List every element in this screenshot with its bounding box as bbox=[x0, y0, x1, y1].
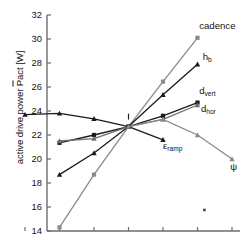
series-line bbox=[60, 103, 198, 143]
chart-container: active drive power Pact [W] 141618202224… bbox=[0, 0, 245, 248]
y-tick-label: 30 bbox=[20, 33, 42, 44]
data-point-marker bbox=[92, 173, 96, 177]
series-label-d_hor: dhor bbox=[201, 103, 216, 114]
y-tick-label: 20 bbox=[20, 153, 42, 164]
y-tick-label: 28 bbox=[20, 57, 42, 68]
data-point-marker bbox=[161, 80, 165, 84]
series-label-psi: ψ bbox=[230, 161, 237, 172]
y-tick-label: 14 bbox=[20, 225, 42, 236]
y-tick-label: 24 bbox=[20, 105, 42, 116]
data-point-marker bbox=[195, 36, 199, 40]
data-point-marker bbox=[195, 62, 200, 67]
series-d_hor bbox=[57, 102, 200, 143]
annotation-dot bbox=[203, 209, 206, 212]
data-point-marker bbox=[57, 225, 61, 229]
series-label-subscript: ramp bbox=[167, 145, 182, 152]
y-tick-label: 18 bbox=[20, 177, 42, 188]
series-line bbox=[60, 38, 198, 228]
y-tick-label: 22 bbox=[20, 129, 42, 140]
series-d_vert bbox=[57, 101, 199, 145]
series-label-h_b: hb bbox=[203, 51, 212, 62]
y-tick-label: 16 bbox=[20, 201, 42, 212]
series-label-eps_ramp: εramp bbox=[163, 140, 182, 151]
series-label-d_vert: dvert bbox=[199, 85, 215, 96]
series-label-cadence: cadence bbox=[199, 20, 235, 31]
series-cadence bbox=[57, 36, 199, 230]
series-label-subscript: vert bbox=[205, 90, 216, 97]
series-label-subscript: hor bbox=[206, 108, 216, 115]
series-label-subscript: b bbox=[208, 56, 212, 63]
data-point-marker bbox=[57, 172, 62, 177]
y-tick-label: 32 bbox=[20, 9, 42, 20]
y-tick-label: 26 bbox=[20, 81, 42, 92]
